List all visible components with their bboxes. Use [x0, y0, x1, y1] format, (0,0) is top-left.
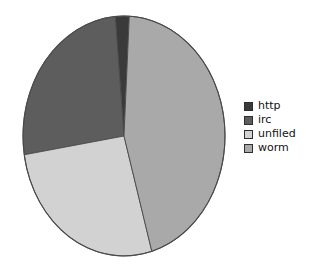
legend-swatch-http: [244, 102, 253, 111]
legend-swatch-unfiled: [244, 130, 253, 139]
legend-label-http: http: [258, 100, 281, 112]
legend-item-irc[interactable]: irc: [244, 113, 317, 127]
pie-chart: http irc unfiled worm: [0, 0, 317, 269]
pie-slice-group: [23, 16, 225, 256]
legend-label-irc: irc: [258, 114, 271, 126]
pie-slice-irc[interactable]: [23, 16, 124, 154]
legend-label-worm: worm: [258, 142, 289, 154]
legend-item-worm[interactable]: worm: [244, 141, 317, 155]
legend-label-unfiled: unfiled: [258, 128, 296, 140]
legend-swatch-irc: [244, 116, 253, 125]
legend-item-http[interactable]: http: [244, 99, 317, 113]
legend-swatch-worm: [244, 144, 253, 153]
legend-item-unfiled[interactable]: unfiled: [244, 127, 317, 141]
legend: http irc unfiled worm: [244, 99, 317, 155]
